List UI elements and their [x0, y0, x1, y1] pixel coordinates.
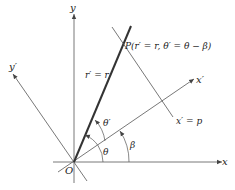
label-y-prime: y′ [8, 61, 18, 72]
diagram-canvas: y x x′ y′ O P(r′ = r, θ′ = θ − β) r′ = r… [0, 0, 235, 190]
label-x-prime: x′ [196, 74, 205, 85]
y-prime-axis [13, 74, 87, 181]
label-beta: β [129, 140, 135, 150]
x-prime-axis [58, 79, 194, 172]
label-y: y [69, 2, 76, 13]
label-origin: O [65, 165, 73, 176]
label-x: x [222, 156, 228, 167]
label-point-p: P(r′ = r, θ′ = θ − β) [124, 41, 212, 51]
label-theta-prime: θ′ [103, 118, 110, 128]
label-radius: r′ = r [85, 70, 110, 80]
beta-arc [120, 131, 129, 162]
theta-arc [85, 135, 103, 162]
label-line: x′ = p [176, 116, 202, 126]
label-theta: θ [103, 147, 109, 157]
